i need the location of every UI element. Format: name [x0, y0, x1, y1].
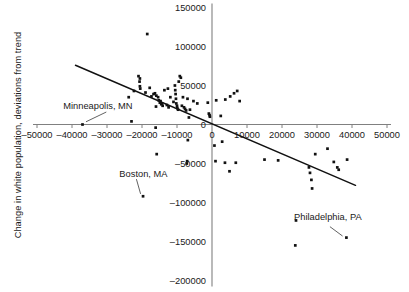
data-point	[174, 93, 177, 96]
scatter-chart-figure: Change in white population, deviations f…	[0, 0, 409, 292]
data-point	[167, 106, 170, 109]
y-tick-label: –200000	[154, 276, 206, 286]
data-point	[234, 161, 237, 164]
data-point	[176, 104, 179, 107]
data-point	[332, 161, 335, 164]
data-point	[206, 101, 209, 104]
annotation-label: Philadelphia, PA	[294, 212, 362, 222]
data-point	[236, 90, 239, 93]
data-point	[169, 96, 172, 99]
y-tick-label: 100000	[154, 42, 206, 52]
x-tick-label: 50000	[374, 130, 400, 140]
data-point	[294, 244, 297, 247]
data-point	[196, 102, 199, 105]
y-tick-label: –50000	[154, 159, 206, 169]
data-point	[159, 100, 162, 103]
data-point	[130, 120, 133, 123]
data-point	[154, 92, 157, 95]
data-point	[209, 115, 212, 118]
data-point	[81, 123, 84, 126]
data-point	[310, 179, 313, 182]
data-point	[224, 161, 227, 164]
data-point	[185, 109, 188, 112]
trend-line	[76, 65, 356, 185]
data-point	[277, 159, 280, 162]
data-point	[139, 87, 142, 90]
data-point	[263, 158, 266, 161]
data-point	[172, 101, 175, 104]
data-point	[142, 195, 145, 198]
y-tick-label: 150000	[154, 3, 206, 13]
annotation-leader-line	[330, 227, 343, 236]
x-tick-label: 0	[209, 130, 214, 140]
data-point	[138, 80, 141, 83]
data-point	[214, 160, 217, 163]
data-point	[139, 77, 142, 80]
data-point	[155, 153, 158, 156]
data-point	[175, 97, 178, 100]
data-point	[177, 108, 180, 111]
data-point	[186, 97, 189, 100]
data-point	[155, 105, 158, 108]
data-point	[233, 92, 236, 95]
data-point	[150, 95, 153, 98]
data-point	[146, 33, 149, 36]
y-tick-label: –100000	[154, 198, 206, 208]
x-tick-label: 20000	[269, 130, 295, 140]
x-tick-label: 30000	[304, 130, 330, 140]
x-tick-label: –50000	[21, 130, 52, 140]
y-tick-label: 50000	[154, 81, 206, 91]
annotation-label: Minneapolis, MN	[63, 101, 132, 111]
data-point	[229, 95, 232, 98]
annotation-leader-line	[136, 179, 140, 194]
data-point	[337, 168, 340, 171]
data-point	[139, 85, 142, 88]
data-point	[345, 236, 348, 239]
data-point	[127, 96, 130, 99]
data-point	[182, 96, 185, 99]
data-point	[326, 147, 329, 150]
data-point	[192, 100, 195, 103]
x-tick-label: 10000	[234, 130, 260, 140]
annotation-label: Boston, MA	[119, 169, 167, 179]
data-point	[166, 104, 169, 107]
data-point	[314, 153, 317, 156]
data-point	[180, 76, 183, 79]
data-point	[189, 108, 192, 111]
x-tick-label: 40000	[339, 130, 365, 140]
x-tick-label: –30000	[91, 130, 122, 140]
data-point	[157, 96, 160, 99]
data-point	[175, 102, 178, 105]
data-point	[221, 140, 224, 143]
axes-group	[33, 4, 391, 287]
x-tick-label: –20000	[126, 130, 157, 140]
data-point	[224, 98, 227, 101]
data-point	[161, 104, 164, 107]
annotation-leader-line	[86, 112, 106, 122]
data-point	[238, 100, 241, 103]
y-tick-label: –150000	[154, 237, 206, 247]
data-point	[309, 172, 312, 175]
data-point	[148, 86, 151, 89]
data-point	[336, 166, 339, 169]
data-point	[133, 90, 136, 93]
data-point	[144, 91, 147, 94]
data-point	[137, 75, 140, 78]
data-point	[346, 158, 349, 161]
x-tick-label: –40000	[56, 130, 87, 140]
x-tick-label: –10000	[161, 130, 192, 140]
data-point	[161, 102, 164, 105]
trend-line-segment	[76, 65, 356, 185]
data-point	[308, 166, 311, 169]
data-point	[215, 99, 218, 102]
data-point	[311, 187, 314, 190]
y-tick-label: 0	[154, 120, 206, 130]
data-point	[219, 115, 222, 118]
data-point	[213, 144, 216, 147]
data-point	[188, 116, 191, 119]
data-point	[228, 170, 231, 173]
